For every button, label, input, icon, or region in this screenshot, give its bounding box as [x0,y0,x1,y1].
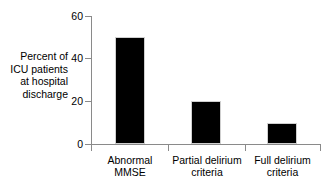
y-tick-label-60-wrap: 60 [57,11,83,22]
y-tick-label-40: 40 [61,53,83,64]
x-category-label-1: Partial delirium criteria [164,154,250,179]
y-tick-label-40-wrap: 40 [57,53,83,64]
y-tick-label-0-wrap: 0 [57,139,83,150]
y-axis-title-line-3: at hospital [2,75,68,88]
bar-partial-delirium-criteria [191,101,221,144]
x-category-label-2-line-2: criteria [243,166,322,178]
x-category-label-0: Abnormal MMSE [90,154,170,179]
y-axis-title-line-2: ICU patients [2,63,68,76]
x-category-label-0-line-2: MMSE [90,166,170,178]
y-tick-mark-20 [85,101,91,102]
x-category-label-2: Full delirium criteria [243,154,322,179]
x-category-label-1-line-1: Partial delirium [164,154,250,166]
y-axis-line [91,16,92,145]
x-axis-line [91,144,321,145]
x-tick-mark-1 [168,145,169,151]
y-tick-mark-60 [85,16,91,17]
bar-full-delirium-criteria [267,123,297,144]
x-tick-mark-3 [320,145,321,151]
x-tick-mark-0 [91,145,92,151]
x-category-label-1-line-2: criteria [164,166,250,178]
y-tick-label-20-wrap: 20 [57,96,83,107]
bar-chart-figure: Percent of ICU patients at hospital disc… [0,0,329,187]
y-tick-label-60: 60 [61,11,83,22]
y-tick-label-0: 0 [61,139,83,150]
y-tick-mark-40 [85,58,91,59]
y-tick-label-20: 20 [61,96,83,107]
bar-abnormal-mmse [115,37,145,144]
x-category-label-2-line-1: Full delirium [243,154,322,166]
x-category-label-0-line-1: Abnormal [90,154,170,166]
x-tick-mark-2 [245,145,246,151]
